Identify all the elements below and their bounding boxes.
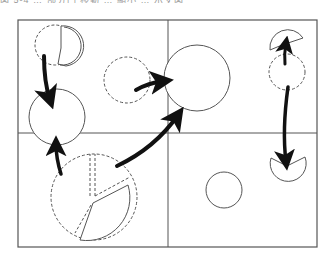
arrow-pie-to-big — [117, 115, 178, 166]
arrow-tr-up — [285, 43, 286, 64]
big-circle — [164, 45, 230, 111]
tr-dashed-circle — [269, 54, 305, 90]
arrow-dashed-to-big — [136, 81, 164, 90]
mid-dashed-circle — [104, 57, 150, 103]
small-circle — [206, 172, 242, 208]
left-circle — [29, 89, 85, 145]
tl-pie-piece — [58, 26, 84, 66]
arrow-tr-down — [284, 87, 288, 162]
diagram-canvas — [0, 0, 330, 265]
arrow-pie-to-left — [56, 144, 61, 174]
big-pie-solid-sector — [80, 185, 130, 241]
br-pacman — [270, 157, 306, 181]
